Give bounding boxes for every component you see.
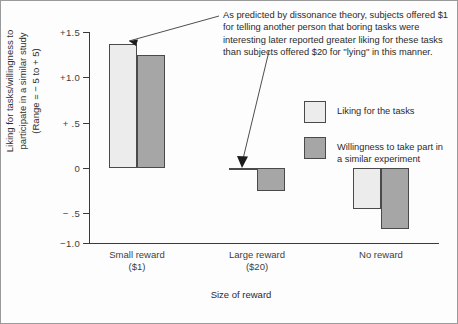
legend-item-liking: Liking for the tasks [304,101,449,123]
y-tick-label-5: − .5 [48,208,80,219]
x-axis-title: Size of reward [161,289,321,300]
x-group-label-small-reward-line1: Small reward [77,249,197,261]
y-axis-line [89,32,90,244]
y-tick-label-4: 0 [48,163,80,174]
bar-small-reward-willingness [137,55,165,168]
y-tick-label-3: + .5 [48,118,80,129]
figure-container: Liking for tasks/willingness to particip… [0,0,458,324]
legend-item-willingness: Willingness to take part in a similar ex… [304,137,449,166]
y-tick-mark-3 [83,123,89,124]
x-group-label-no-reward-line1: No reward [321,249,441,261]
leader-line-small-reward [129,16,219,41]
legend-label-willingness: Willingness to take part in a similar ex… [337,137,449,166]
y-axis-title-line-1: Liking for tasks/willingness to [3,0,16,186]
y-axis-title-line-3: (Range = − 5 to + 5) [29,0,42,186]
bar-large-reward-liking [229,168,257,170]
y-tick-mark-4 [83,168,89,169]
x-group-label-small-reward-line2: ($1) [77,261,197,273]
y-tick-mark-1 [83,32,89,33]
y-tick-mark-6 [83,243,89,244]
y-axis-title-line-2: participate in a similar study [16,0,29,186]
y-tick-label-1: +1.5 [48,27,80,38]
x-group-label-no-reward: No reward [321,249,441,261]
legend-swatch-dark-icon [304,137,326,159]
leader-line-large-reward [243,51,269,159]
bar-small-reward-liking [109,44,137,168]
legend: Liking for the tasks Willingness to take… [304,101,449,180]
y-tick-label-6: −1.0 [48,238,80,249]
x-group-label-small-reward: Small reward ($1) [77,249,197,273]
y-tick-mark-2 [83,77,89,78]
legend-swatch-light-icon [304,101,326,123]
x-group-label-large-reward: Large reward ($20) [197,249,317,273]
legend-label-liking: Liking for the tasks [337,101,449,117]
bar-large-reward-willingness [257,168,285,191]
y-tick-label-2: +1.0 [48,72,80,83]
x-axis-line [89,243,439,244]
x-group-label-large-reward-line1: Large reward [197,249,317,261]
x-group-label-large-reward-line2: ($20) [197,261,317,273]
annotation-text: As predicted by dissonance theory, subje… [223,9,451,58]
arrowhead-large-reward-icon [237,156,248,168]
y-tick-mark-5 [83,213,89,214]
